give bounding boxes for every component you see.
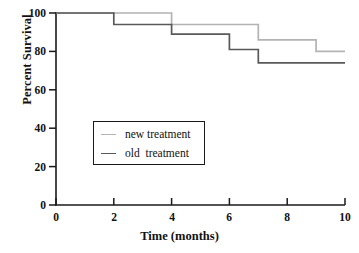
legend-item-new-treatment: new treatment [101, 124, 190, 144]
legend-swatch-new-treatment [101, 134, 116, 135]
series-line-old-treatment [56, 13, 345, 63]
series-line-new-treatment [56, 13, 345, 51]
y-axis-ticks [49, 13, 56, 205]
x-axis-ticks [56, 198, 345, 205]
legend-item-old-treatment: old treatment [101, 143, 189, 163]
legend-label-old-treatment: old treatment [125, 147, 189, 159]
legend-swatch-old-treatment [101, 153, 116, 154]
legend: new treatment old treatment [93, 121, 205, 165]
axis-lines [55, 12, 345, 206]
legend-label-new-treatment: new treatment [125, 128, 190, 140]
survival-chart-figure: Percent Survival Time (months) 100 80 60… [0, 0, 359, 253]
